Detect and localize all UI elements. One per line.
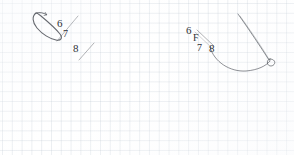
right-stroke-arc (210, 47, 270, 71)
right-stroke-long-diagonal (238, 14, 269, 60)
figure-right-artwork (0, 0, 294, 155)
sketch-canvas: 6 7 8 6 F 7 8 (0, 0, 294, 155)
right-label-8: 8 (209, 43, 215, 54)
right-label-7: 7 (197, 43, 202, 53)
right-label-6: 6 (186, 25, 192, 36)
